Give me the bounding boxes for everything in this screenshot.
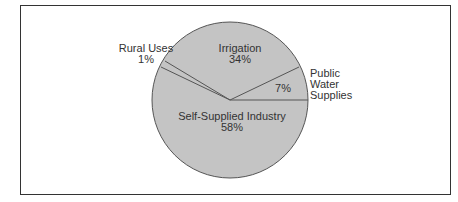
label-self-supplied-industry: Self-Supplied Industry 58% <box>172 111 292 133</box>
irrigation-pct: 34% <box>210 54 270 65</box>
label-rural-uses: Rural Uses 1% <box>118 43 174 65</box>
label-public-pct: 7% <box>272 83 294 94</box>
label-public-water: Public Water Supplies <box>310 68 352 101</box>
label-irrigation: Irrigation 34% <box>210 43 270 65</box>
public-pct: 7% <box>272 83 294 94</box>
public-line-3: Supplies <box>310 90 352 101</box>
industry-pct: 58% <box>172 122 292 133</box>
pie-chart <box>0 0 458 202</box>
rural-pct: 1% <box>118 54 174 65</box>
